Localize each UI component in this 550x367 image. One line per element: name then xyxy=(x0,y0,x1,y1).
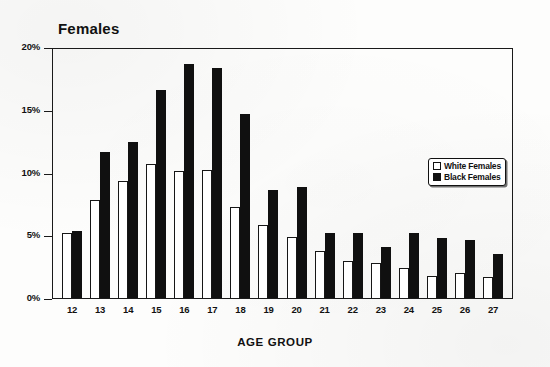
legend-item-white-females: White Females xyxy=(432,161,502,172)
bar-white-females xyxy=(483,277,493,298)
bar-chart: Females 0%5%10%15%20% 121314151617181920… xyxy=(0,0,550,367)
x-axis-tick-label: 27 xyxy=(479,304,507,315)
bar-group xyxy=(198,49,226,298)
bar-group xyxy=(395,49,423,298)
bar-white-females xyxy=(118,181,128,298)
bar-black-females xyxy=(493,254,503,298)
bar-black-females xyxy=(184,64,194,298)
bar-black-females xyxy=(325,233,335,298)
x-axis-tick-label: 21 xyxy=(311,304,339,315)
x-axis-tick-label: 18 xyxy=(226,304,254,315)
y-axis-tick-mark xyxy=(44,111,52,112)
y-axis-tick-label: 10% xyxy=(22,167,40,178)
bar-group xyxy=(226,49,254,298)
bar-black-females xyxy=(353,233,363,298)
bar-group xyxy=(170,49,198,298)
x-axis-tick-label: 12 xyxy=(58,304,86,315)
bar-white-females xyxy=(399,268,409,298)
bar-black-females xyxy=(268,190,278,298)
y-axis-tick-label: 20% xyxy=(22,41,40,52)
bar-white-females xyxy=(315,251,325,298)
x-axis-tick-label: 16 xyxy=(170,304,198,315)
legend-item-black-females: Black Females xyxy=(432,172,502,183)
bar-white-females xyxy=(62,233,72,298)
bar-white-females xyxy=(343,261,353,298)
bar-white-females xyxy=(287,237,297,298)
legend-swatch-black-icon xyxy=(433,173,441,181)
bar-black-females xyxy=(72,231,82,298)
bar-group xyxy=(86,49,114,298)
x-axis-tick-label: 25 xyxy=(423,304,451,315)
y-axis-tick-mark xyxy=(44,174,52,175)
x-axis-tick-label: 20 xyxy=(283,304,311,315)
x-axis-title: AGE GROUP xyxy=(0,336,550,348)
x-axis-tick-label: 17 xyxy=(198,304,226,315)
bar-white-females xyxy=(174,171,184,298)
y-axis-tick-mark xyxy=(44,299,52,300)
x-axis-tick-label: 22 xyxy=(339,304,367,315)
bar-black-females xyxy=(212,68,222,298)
bar-group xyxy=(367,49,395,298)
x-axis-tick-label: 24 xyxy=(395,304,423,315)
bar-black-females xyxy=(240,114,250,298)
bar-black-females xyxy=(297,187,307,298)
bar-black-females xyxy=(465,240,475,299)
bar-black-females xyxy=(409,233,419,298)
x-axis-tick-label: 15 xyxy=(142,304,170,315)
legend-label-white-females: White Females xyxy=(444,162,501,171)
x-axis-tick-label: 14 xyxy=(114,304,142,315)
bar-group xyxy=(58,49,86,298)
chart-title: Females xyxy=(58,20,119,37)
bar-black-females xyxy=(156,90,166,298)
bar-white-females xyxy=(258,225,268,298)
y-axis-tick-label: 0% xyxy=(27,292,40,303)
bar-black-females xyxy=(100,152,110,298)
bar-group xyxy=(114,49,142,298)
bar-black-females xyxy=(381,247,391,298)
bar-white-females xyxy=(455,273,465,298)
bar-group xyxy=(339,49,367,298)
x-axis-tick-label: 19 xyxy=(254,304,282,315)
bar-group xyxy=(142,49,170,298)
x-axis-tick-label: 13 xyxy=(86,304,114,315)
bar-white-females xyxy=(90,200,100,298)
x-axis-tick-label: 23 xyxy=(367,304,395,315)
bar-black-females xyxy=(128,142,138,298)
y-axis-tick-label: 15% xyxy=(22,104,40,115)
legend-label-black-females: Black Females xyxy=(444,173,500,182)
y-axis-tick-mark xyxy=(44,48,52,49)
bar-white-females xyxy=(371,263,381,298)
legend-swatch-white-icon xyxy=(433,162,441,170)
bar-white-females xyxy=(146,164,156,298)
legend: White Females Black Females xyxy=(428,158,506,186)
y-axis-tick-label: 5% xyxy=(27,229,40,240)
bar-white-females xyxy=(202,170,212,298)
x-axis-tick-labels: 12131415161718192021222324252627 xyxy=(53,304,512,315)
bar-white-females xyxy=(230,207,240,298)
y-axis-tick-mark xyxy=(44,236,52,237)
bar-white-females xyxy=(427,276,437,298)
bar-group xyxy=(254,49,282,298)
x-axis-tick-label: 26 xyxy=(451,304,479,315)
bar-group xyxy=(311,49,339,298)
bar-black-females xyxy=(437,238,447,298)
bar-group xyxy=(283,49,311,298)
